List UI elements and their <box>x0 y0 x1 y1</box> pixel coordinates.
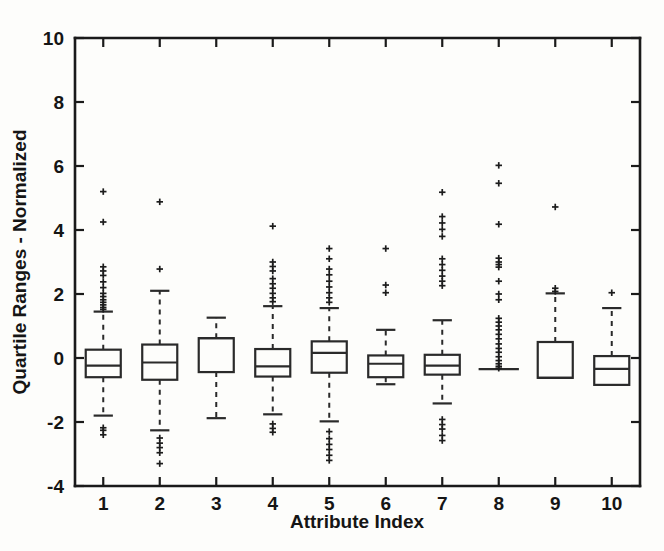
x-tick-label-3: 3 <box>211 493 222 514</box>
x-axis-title: Attribute Index <box>290 511 424 532</box>
y-tick-label-10: 10 <box>43 28 64 49</box>
boxplot-svg: -4-20246810 12345678910 Attribute Index … <box>0 0 664 551</box>
boxplot-figure: -4-20246810 12345678910 Attribute Index … <box>0 0 664 551</box>
y-tick-label-6: 6 <box>53 156 64 177</box>
y-tick-label-2: 2 <box>53 284 64 305</box>
y-tick-label--2: -2 <box>47 412 64 433</box>
y-tick-label-0: 0 <box>53 348 64 369</box>
y-axis-title: Quartile Ranges - Normalized <box>9 129 30 394</box>
y-tick-label-8: 8 <box>53 92 64 113</box>
x-tick-label-10: 10 <box>601 493 622 514</box>
x-tick-label-8: 8 <box>493 493 504 514</box>
x-tick-label-2: 2 <box>154 493 165 514</box>
x-tick-label-1: 1 <box>98 493 109 514</box>
x-tick-label-7: 7 <box>437 493 448 514</box>
y-tick-label-4: 4 <box>53 220 64 241</box>
y-tick-label--4: -4 <box>47 476 64 497</box>
x-tick-label-4: 4 <box>267 493 278 514</box>
x-tick-label-9: 9 <box>550 493 561 514</box>
